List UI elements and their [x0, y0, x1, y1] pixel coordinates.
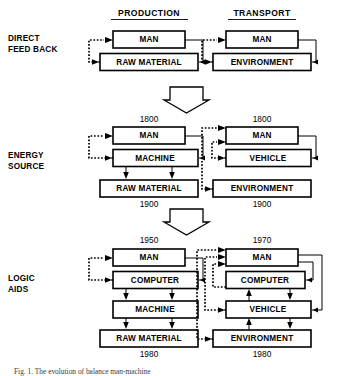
diagram-canvas: PRODUCTION TRANSPORT DIRECT FEED BACK EN… — [0, 0, 356, 376]
row-label-logic-aids-line2: AIDS — [8, 285, 29, 294]
row3-right-arrowhead-into-vehicle-dotted — [218, 307, 225, 313]
row3-right-arrowhead-into-computer — [307, 278, 312, 283]
label-r1-right-man: MAN — [252, 35, 271, 44]
year-r3-left-top: 1950 — [140, 235, 159, 245]
row2-right-arrowhead-into-man-inner — [218, 139, 226, 145]
row-labels: DIRECT FEED BACK ENERGY SOURCE LOGIC AID… — [8, 34, 58, 294]
year-r3-left-bottom: 1980 — [140, 349, 159, 359]
label-r3-right-man: MAN — [252, 253, 271, 262]
row2-right-group: MAN VEHICLE ENVIRONMENT — [202, 125, 318, 197]
label-r3-right-vehicle: VEHICLE — [250, 305, 287, 314]
year-r2-left-bottom: 1900 — [140, 199, 159, 209]
row1-left-arrowhead-into-raw-dotted — [92, 59, 99, 65]
row2-left-arrowhead-into-man — [105, 133, 113, 139]
label-r2-right-vehicle: VEHICLE — [250, 154, 287, 163]
label-r3-left-machine: MACHINE — [135, 305, 175, 314]
figure-caption: Fig. 1. The evolution of balance man-mac… — [14, 367, 151, 376]
row3-right-arrowhead-down-vehicle — [287, 293, 293, 300]
row3-left-arrowhead-machine-a — [123, 293, 129, 300]
year-r3-right-bottom: 1980 — [253, 349, 272, 359]
evolution-arrow-1 — [164, 87, 209, 113]
row1-right-arrowhead-into-env-dotted — [205, 59, 212, 65]
row2-right-arrowhead-into-env-dotted — [205, 186, 212, 192]
year-r2-right-bottom: 1900 — [253, 199, 272, 209]
label-r3-left-raw-material: RAW MATERIAL — [116, 334, 181, 343]
label-r3-right-environment: ENVIRONMENT — [231, 334, 294, 343]
row3-right-arrowhead-into-vehicle — [313, 308, 318, 313]
label-r2-right-man: MAN — [252, 131, 271, 140]
row1-right-arrowhead-into-man — [218, 37, 226, 43]
label-r2-left-raw-material: RAW MATERIAL — [116, 184, 181, 193]
column-heading-transport: TRANSPORT — [233, 8, 290, 18]
row3-right-arrowhead-into-man-outer — [218, 247, 226, 253]
label-r1-left-man: MAN — [139, 35, 158, 44]
label-r1-left-raw-material: RAW MATERIAL — [116, 58, 181, 67]
column-headings: PRODUCTION TRANSPORT — [111, 8, 296, 20]
year-r3-right-top: 1970 — [253, 235, 272, 245]
row2-right-arrowhead-into-man — [218, 125, 226, 131]
year-r2-right-top: 1800 — [253, 114, 272, 124]
row3-left-arrowhead-raw-a — [123, 322, 129, 329]
row3-right-group: MAN COMPUTER VEHICLE ENVIRONMENT — [197, 247, 322, 347]
row3-right-arrowhead-up-computer — [246, 289, 252, 296]
figure-diagram: PRODUCTION TRANSPORT DIRECT FEED BACK EN… — [0, 0, 356, 376]
row2-right-arrowhead-into-vehicle-dotted — [218, 155, 225, 161]
row3-left-feedback-dotted — [89, 258, 113, 280]
label-r2-left-man: MAN — [139, 131, 158, 140]
row-label-direct-feedback-line2: FEED BACK — [8, 45, 58, 54]
row1-right-group: MAN ENVIRONMENT — [202, 31, 318, 71]
row-label-direct-feedback-line1: DIRECT — [8, 34, 40, 43]
evolution-arrow-2 — [164, 209, 209, 235]
row3-right-arrowhead-into-env-dotted — [205, 336, 212, 342]
label-r1-right-environment: ENVIRONMENT — [231, 58, 294, 67]
row3-left-arrowhead-into-computer-dotted — [105, 277, 112, 283]
row1-left-arrowhead-into-man — [105, 37, 113, 43]
row3-left-arrowhead-raw-b — [169, 322, 175, 329]
row3-left-arrowhead-into-man — [105, 255, 113, 261]
label-r2-left-machine: MACHINE — [135, 154, 175, 163]
row-label-energy-source-line2: SOURCE — [8, 162, 45, 171]
row3-right-arrowhead-into-man-mid — [218, 254, 226, 260]
label-r3-right-computer: COMPUTER — [241, 276, 289, 285]
row3-left-arrowhead-machine-b — [169, 293, 175, 300]
label-r3-left-man: MAN — [139, 253, 158, 262]
column-heading-production: PRODUCTION — [118, 8, 180, 18]
year-r2-left-top: 1800 — [140, 114, 159, 124]
row2-left-arrowhead-raw-b — [169, 172, 175, 179]
row2-left-arrowhead-raw-a — [123, 172, 129, 179]
row2-left-arrowhead-into-machine-dotted — [105, 155, 112, 161]
row3-right-arrowhead-up-vehicle — [246, 318, 252, 325]
row3-right-arrowhead-into-man-inner — [218, 261, 226, 267]
label-r3-left-computer: COMPUTER — [131, 276, 179, 285]
row2-left-group: MAN MACHINE RAW MATERIAL — [89, 127, 205, 197]
row3-right-feedback-dotted-outer — [197, 250, 217, 339]
row3-left-group: MAN COMPUTER MACHINE RAW MATERIAL — [89, 249, 205, 347]
row3-right-feedback-dotted-inner — [213, 264, 226, 287]
label-r2-right-environment: ENVIRONMENT — [231, 184, 294, 193]
row3-right-arrowhead-down-env — [287, 322, 293, 329]
row1-left-group: MAN RAW MATERIAL — [89, 31, 205, 71]
row-label-energy-source-line1: ENERGY — [8, 151, 44, 160]
row-label-logic-aids-line1: LOGIC — [8, 274, 35, 283]
row2-left-feedback-dotted — [89, 136, 113, 158]
